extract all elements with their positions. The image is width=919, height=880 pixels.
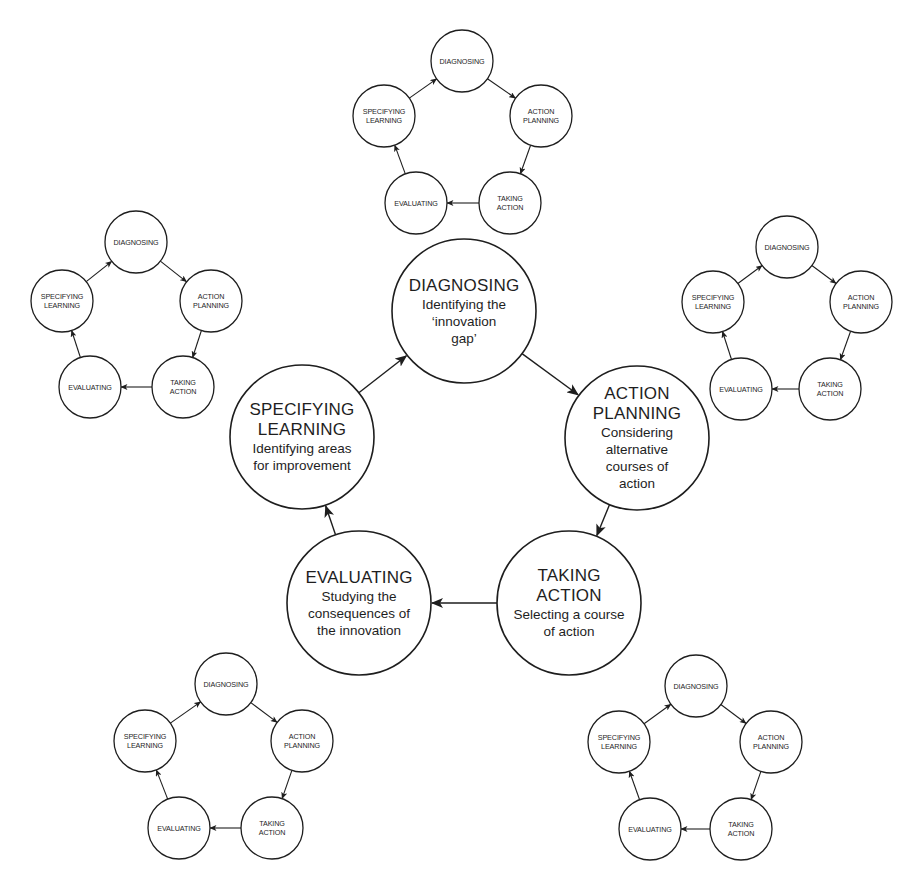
sub-cycles: DIAGNOSINGACTIONPLANNINGTAKINGACTIONEVAL… (31, 30, 892, 860)
stage-description: consequences of (308, 606, 410, 621)
sub-arrow (738, 265, 762, 283)
sub-stage-label: LEARNING (44, 301, 80, 310)
sub-stage-label: DIAGNOSING (440, 57, 485, 66)
sub-stage-label: ACTION (848, 293, 875, 302)
sub-arrow (722, 332, 731, 360)
stage-node-action-planning: ACTIONPLANNINGConsideringalternativecour… (565, 366, 709, 510)
sub-stage-label: LEARNING (366, 116, 402, 125)
stage-description: alternative (606, 442, 668, 457)
stage-description: for improvement (253, 458, 351, 473)
sub-arrow (840, 331, 850, 360)
stage-title: EVALUATING (305, 568, 412, 587)
sub-cycle-bottom-left: DIAGNOSINGACTIONPLANNINGTAKINGACTIONEVAL… (114, 653, 333, 859)
sub-stage-label: PLANNING (193, 301, 229, 310)
stage-title: ACTION (536, 586, 601, 605)
sub-stage-label: EVALUATING (157, 824, 201, 833)
stage-node-evaluating: EVALUATINGStudying theconsequences ofthe… (287, 531, 431, 675)
stage-description: Considering (601, 425, 673, 440)
sub-cycle-bottom-right: DIAGNOSINGACTIONPLANNINGTAKINGACTIONEVAL… (588, 655, 802, 860)
sub-stage-label: DIAGNOSING (765, 243, 810, 252)
sub-stage-label: SPECIFYING (41, 292, 84, 301)
sub-stage-label: PLANNING (284, 741, 320, 750)
stage-node-diagnosing: DIAGNOSINGIdentifying the‘innovationgap’ (392, 239, 536, 383)
sub-stage-label: SPECIFYING (363, 107, 406, 116)
arrow-evaluating-to-specifying-learning (326, 506, 336, 535)
stage-description: ‘innovation (432, 314, 497, 329)
sub-stage-label: SPECIFYING (124, 732, 167, 741)
sub-stage-label: ACTION (728, 829, 755, 838)
sub-stage-label: PLANNING (523, 116, 559, 125)
sub-stage-label: ACTION (170, 387, 197, 396)
stage-title: TAKING (537, 566, 600, 585)
sub-stage-label: ACTION (528, 107, 555, 116)
stage-description: Identifying areas (252, 441, 351, 456)
sub-arrow (751, 771, 761, 799)
stage-title: LEARNING (258, 420, 347, 439)
sub-arrow (156, 770, 167, 799)
stage-description: action (619, 476, 655, 491)
sub-stage-label: ACTION (259, 828, 286, 837)
sub-arrow (251, 703, 277, 723)
sub-stage-label: EVALUATING (394, 199, 438, 208)
action-research-cycle-diagram: DIAGNOSINGACTIONPLANNINGTAKINGACTIONEVAL… (0, 0, 919, 880)
sub-stage-label: DIAGNOSING (114, 238, 159, 247)
stage-node-taking-action: TAKINGACTIONSelecting a courseof action (497, 531, 641, 675)
sub-stage-label: TAKING (817, 380, 843, 389)
sub-stage-label: TAKING (728, 820, 754, 829)
sub-stage-label: EVALUATING (68, 383, 112, 392)
sub-arrow (395, 145, 406, 174)
sub-cycle-right: DIAGNOSINGACTIONPLANNINGTAKINGACTIONEVAL… (682, 216, 892, 420)
stage-description: Identifying the (422, 297, 506, 312)
sub-stage-label: ACTION (758, 733, 785, 742)
stage-description: the innovation (317, 623, 401, 638)
sub-arrow (721, 705, 746, 724)
sub-arrow (812, 265, 836, 283)
sub-arrow (629, 771, 639, 800)
sub-stage-label: TAKING (170, 378, 196, 387)
sub-arrow (170, 702, 200, 723)
arrow-action-planning-to-taking-action (597, 505, 610, 536)
stage-description: of action (543, 624, 594, 639)
stage-title: SPECIFYING (250, 400, 355, 419)
stage-title: DIAGNOSING (409, 276, 520, 295)
stage-description: Studying the (321, 589, 396, 604)
sub-stage-label: LEARNING (127, 741, 163, 750)
sub-arrow (282, 770, 292, 798)
sub-stage-label: PLANNING (753, 742, 789, 751)
stage-description: courses of (606, 459, 669, 474)
sub-stage-label: DIAGNOSING (674, 682, 719, 691)
arrow-diagnosing-to-action-planning (522, 354, 578, 395)
sub-stage-label: PLANNING (843, 302, 879, 311)
sub-stage-label: SPECIFYING (692, 293, 735, 302)
sub-arrow (487, 79, 515, 99)
sub-stage-label: DIAGNOSING (204, 680, 249, 689)
sub-stage-label: EVALUATING (719, 385, 763, 394)
sub-arrow (193, 330, 202, 357)
sub-stage-label: ACTION (817, 389, 844, 398)
sub-stage-label: LEARNING (695, 302, 731, 311)
sub-stage-label: LEARNING (601, 742, 637, 751)
arrow-specifying-learning-to-diagnosing (359, 356, 407, 393)
stage-description: gap’ (451, 331, 477, 346)
sub-stage-label: SPECIFYING (598, 733, 641, 742)
sub-stage-label: ACTION (289, 732, 316, 741)
sub-stage-label: ACTION (497, 203, 524, 212)
stage-description: Selecting a course (513, 607, 624, 622)
stage-title: ACTION (604, 384, 669, 403)
sub-arrow (86, 261, 112, 281)
sub-cycle-left: DIAGNOSINGACTIONPLANNINGTAKINGACTIONEVAL… (31, 211, 242, 418)
sub-stage-label: EVALUATING (628, 825, 672, 834)
diagram-canvas: DIAGNOSINGACTIONPLANNINGTAKINGACTIONEVAL… (0, 0, 919, 880)
sub-arrow (72, 330, 81, 357)
stage-node-specifying-learning: SPECIFYINGLEARNINGIdentifying areasfor i… (230, 365, 374, 509)
sub-cycle-top: DIAGNOSINGACTIONPLANNINGTAKINGACTIONEVAL… (353, 30, 572, 234)
main-cycle: DIAGNOSINGIdentifying the‘innovationgap’… (230, 239, 709, 675)
sub-stage-label: TAKING (259, 819, 285, 828)
sub-arrow (520, 145, 530, 174)
sub-arrow (409, 79, 436, 98)
sub-arrow (160, 261, 186, 282)
sub-stage-label: TAKING (497, 194, 523, 203)
sub-arrow (644, 704, 671, 724)
stage-title: PLANNING (593, 404, 682, 423)
sub-stage-label: ACTION (198, 292, 225, 301)
